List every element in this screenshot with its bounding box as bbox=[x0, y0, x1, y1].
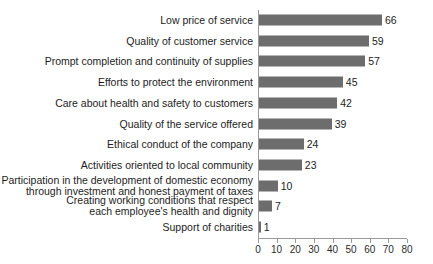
category-label: Quality of the service offered bbox=[1, 118, 253, 129]
bar-value-label: 39 bbox=[335, 118, 347, 129]
category-label: Activities oriented to local community bbox=[1, 159, 253, 170]
x-axis-tick-label: 30 bbox=[308, 244, 319, 256]
bar-row: Efforts to protect the environment45 bbox=[0, 72, 433, 92]
bar-row: Activities oriented to local community23 bbox=[0, 155, 433, 175]
bar-row: Creating working conditions that respect… bbox=[0, 196, 433, 216]
bar bbox=[259, 180, 278, 191]
bar-row: Participation in the development of dome… bbox=[0, 176, 433, 196]
bar-value-label: 24 bbox=[307, 139, 319, 150]
bar-row: Ethical conduct of the company24 bbox=[0, 134, 433, 154]
category-label: Quality of customer service bbox=[1, 35, 253, 46]
bar bbox=[259, 201, 272, 212]
x-axis-tick bbox=[407, 239, 408, 243]
bar bbox=[259, 56, 365, 67]
bar bbox=[259, 139, 304, 150]
x-axis-tick-label: 20 bbox=[290, 244, 301, 256]
category-label: Prompt completion and continuity of supp… bbox=[1, 56, 253, 67]
bar bbox=[259, 97, 337, 108]
bar bbox=[259, 77, 343, 88]
x-axis-tick-label: 50 bbox=[346, 244, 357, 256]
x-axis-tick-label: 80 bbox=[401, 244, 412, 256]
bar bbox=[259, 35, 369, 46]
bar-value-label: 10 bbox=[281, 180, 293, 191]
bar bbox=[259, 15, 382, 26]
bar-value-label: 7 bbox=[275, 201, 281, 212]
bar bbox=[259, 222, 261, 233]
x-axis-tick bbox=[258, 239, 259, 243]
category-label: Participation in the development of dome… bbox=[1, 175, 253, 197]
x-axis-tick-label: 60 bbox=[364, 244, 375, 256]
x-axis-tick bbox=[388, 239, 389, 243]
category-label: Creating working conditions that respect… bbox=[1, 195, 253, 217]
x-axis-tick-label: 0 bbox=[255, 244, 261, 256]
x-axis-tick bbox=[314, 239, 315, 243]
bar-row: Care about health and safety to customer… bbox=[0, 93, 433, 113]
bar-chart: 01020304050607080 Low price of service66… bbox=[0, 0, 433, 264]
bar-value-label: 59 bbox=[372, 35, 384, 46]
bar-row: Quality of the service offered39 bbox=[0, 114, 433, 134]
x-axis-tick bbox=[295, 239, 296, 243]
category-label: Care about health and safety to customer… bbox=[1, 97, 253, 108]
bar bbox=[259, 118, 332, 129]
category-label: Low price of service bbox=[1, 15, 253, 26]
category-label: Ethical conduct of the company bbox=[1, 139, 253, 150]
bar-value-label: 57 bbox=[368, 56, 380, 67]
bar-value-label: 66 bbox=[385, 15, 397, 26]
x-axis-tick-label: 70 bbox=[383, 244, 394, 256]
bar-value-label: 1 bbox=[264, 222, 270, 233]
bar-row: Prompt completion and continuity of supp… bbox=[0, 51, 433, 71]
bar-row: Quality of customer service59 bbox=[0, 31, 433, 51]
bar-value-label: 23 bbox=[305, 159, 317, 170]
bar bbox=[259, 159, 302, 170]
category-label: Efforts to protect the environment bbox=[1, 77, 253, 88]
category-label: Support of charities bbox=[1, 222, 253, 233]
plot-area: 01020304050607080 Low price of service66… bbox=[0, 0, 433, 264]
x-axis-tick bbox=[351, 239, 352, 243]
x-axis-tick bbox=[333, 239, 334, 243]
x-axis-tick bbox=[277, 239, 278, 243]
x-axis-tick-label: 40 bbox=[327, 244, 338, 256]
bar-value-label: 42 bbox=[340, 97, 352, 108]
x-axis-tick-label: 10 bbox=[271, 244, 282, 256]
bar-row: Low price of service66 bbox=[0, 10, 433, 30]
bar-row: Support of charities1 bbox=[0, 217, 433, 237]
x-axis-tick bbox=[370, 239, 371, 243]
bar-value-label: 45 bbox=[346, 77, 358, 88]
